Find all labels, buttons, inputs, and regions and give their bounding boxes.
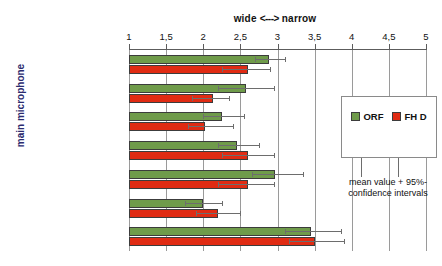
- error-bar-cap: [222, 67, 223, 72]
- error-bar-line: [289, 241, 345, 242]
- error-bar-cap: [285, 229, 286, 234]
- error-bar-line: [222, 155, 274, 156]
- x-tick-label: 5: [423, 31, 428, 42]
- error-bar-cap: [218, 182, 219, 187]
- legend-swatch-icon: [392, 112, 401, 121]
- x-tick-label: 3: [275, 31, 280, 42]
- error-bar-cap: [344, 239, 345, 244]
- legend-swatch-icon: [351, 112, 360, 121]
- x-tick-label: 1: [126, 31, 131, 42]
- legend-item[interactable]: FH D: [392, 111, 426, 122]
- error-bar-cap: [244, 114, 245, 119]
- error-bar-cap: [240, 211, 241, 216]
- error-bar-cap: [274, 86, 275, 91]
- error-bar-cap: [229, 96, 230, 101]
- error-bar-cap: [252, 172, 253, 177]
- error-bar-line: [185, 203, 222, 204]
- error-bar-cap: [218, 86, 219, 91]
- error-bar-cap: [222, 201, 223, 206]
- legend-box: ORFFH D: [341, 96, 437, 158]
- error-bar-cap: [270, 67, 271, 72]
- x-tick-label: 1,5: [160, 31, 173, 42]
- legend-items: ORFFH D: [342, 111, 436, 122]
- error-bar-cap: [188, 124, 189, 129]
- error-bar-cap: [255, 57, 256, 62]
- error-bar-line: [203, 116, 244, 117]
- error-bar-cap: [185, 201, 186, 206]
- x-tick-label: 4: [349, 31, 354, 42]
- bar-orf: [129, 227, 311, 236]
- error-bar-line: [218, 184, 274, 185]
- x-tick-label: 3,5: [308, 31, 321, 42]
- error-bar-line: [252, 174, 304, 175]
- error-bar-line: [192, 98, 229, 99]
- bar-orf: [129, 55, 269, 64]
- x-tick-label: 2,5: [234, 31, 247, 42]
- axis-title-left: wide: [234, 13, 257, 24]
- gridline: [315, 50, 316, 251]
- error-bar-cap: [285, 57, 286, 62]
- legend-note: mean value + 95%- confidence intervals: [332, 177, 442, 199]
- error-bar-cap: [196, 211, 197, 216]
- error-bar-cap: [203, 114, 204, 119]
- bar-fh-d: [129, 237, 315, 246]
- chart-container: wide <---> narrow main microphone 11,522…: [0, 0, 442, 266]
- legend-leader-left: [361, 158, 362, 177]
- error-bar-cap: [274, 153, 275, 158]
- error-bar-cap: [341, 229, 342, 234]
- error-bar-cap: [274, 182, 275, 187]
- error-bar-cap: [192, 96, 193, 101]
- legend-note-line2: confidence intervals: [332, 188, 442, 199]
- error-bar-cap: [218, 143, 219, 148]
- x-tick-label: 4,5: [382, 31, 395, 42]
- error-bar-cap: [222, 153, 223, 158]
- error-bar-line: [218, 88, 274, 89]
- y-axis-label: main microphone: [15, 46, 26, 166]
- gridline: [278, 50, 279, 251]
- error-bar-line: [255, 59, 285, 60]
- chart-axis-title: wide <---> narrow: [190, 13, 360, 24]
- error-bar-cap: [303, 172, 304, 177]
- axis-title-right: narrow: [282, 13, 317, 24]
- x-tick-label: 2: [201, 31, 206, 42]
- legend-label: FH D: [404, 111, 426, 122]
- error-bar-line: [188, 126, 233, 127]
- legend-leader-right: [398, 158, 399, 177]
- error-bar-line: [218, 145, 259, 146]
- legend-label: ORF: [363, 111, 383, 122]
- legend-note-line1: mean value + 95%-: [332, 177, 442, 188]
- axis-title-arrow: <--->: [260, 13, 279, 24]
- error-bar-cap: [289, 239, 290, 244]
- error-bar-line: [285, 231, 341, 232]
- error-bar-line: [222, 69, 270, 70]
- error-bar-line: [196, 213, 241, 214]
- legend-item[interactable]: ORF: [351, 111, 383, 122]
- error-bar-cap: [233, 124, 234, 129]
- error-bar-cap: [259, 143, 260, 148]
